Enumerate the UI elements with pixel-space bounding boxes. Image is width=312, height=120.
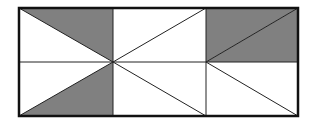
- grid-diagram: [0, 0, 312, 120]
